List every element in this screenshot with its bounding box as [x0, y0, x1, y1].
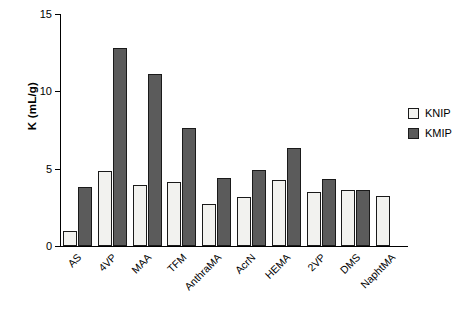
x-tick-label: HEMA [263, 251, 293, 281]
y-tick-mark [55, 246, 60, 247]
bar-kmip-anthrama [217, 178, 231, 246]
bar-group [63, 14, 92, 246]
bar-kmip-tfm [182, 128, 196, 246]
bar-group [167, 14, 196, 246]
bar-knip-hema [272, 180, 286, 247]
x-tick-label: DMS [337, 251, 362, 276]
bar-group [272, 14, 301, 246]
bar-group [133, 14, 162, 246]
bar-knip-naphtma [376, 196, 390, 246]
plot-area [60, 14, 408, 246]
x-tick-label: MAA [129, 251, 154, 276]
bar-kmip-hema [287, 148, 301, 246]
bar-kmip-dms [356, 190, 370, 246]
bar-knip-dms [341, 190, 355, 246]
x-tick-label: TFM [165, 251, 189, 275]
y-tick-mark [55, 14, 60, 15]
x-tick-label: 2VP [305, 251, 328, 274]
bar-knip-tfm [167, 182, 181, 246]
bar-group [237, 14, 266, 246]
x-tick-label: AcrN [233, 251, 258, 276]
bar-chart: K (mL/g) AS4VPMAATFMAnthraMAAcrNHEMA2VPD… [0, 0, 473, 324]
bar-group [341, 14, 370, 246]
legend-item-knip: KNIP [408, 108, 452, 119]
x-axis-line [60, 246, 408, 247]
legend-item-kmip: KMIP [408, 128, 452, 139]
bar-group [202, 14, 231, 246]
bar-kmip-maa [148, 74, 162, 246]
chart-legend: KNIP KMIP [408, 108, 452, 148]
x-tick-label: NaphtMA [358, 251, 397, 290]
bar-group [307, 14, 336, 246]
bar-knip-4vp [98, 171, 112, 246]
bar-knip-maa [133, 185, 147, 246]
bar-knip-as [63, 231, 77, 246]
y-tick-label: 5 [12, 163, 52, 175]
y-tick-mark [55, 91, 60, 92]
y-tick-label: 15 [12, 8, 52, 20]
bar-kmip-4vp [113, 48, 127, 246]
bar-group [98, 14, 127, 246]
bar-knip-acrn [237, 197, 251, 246]
y-tick-label: 10 [12, 85, 52, 97]
y-tick-mark [55, 169, 60, 170]
y-tick-label: 0 [12, 240, 52, 252]
legend-label-kmip: KMIP [425, 128, 452, 139]
bar-group [376, 14, 405, 246]
x-tick-label: AS [65, 251, 83, 269]
bar-knip-2vp [307, 192, 321, 246]
bar-kmip-2vp [322, 179, 336, 246]
legend-label-knip: KNIP [425, 108, 451, 119]
x-tick-label: 4VP [96, 251, 119, 274]
legend-swatch-kmip [408, 128, 419, 139]
legend-swatch-knip [408, 108, 419, 119]
bar-knip-anthrama [202, 204, 216, 246]
bar-kmip-as [78, 187, 92, 246]
x-tick-label: AnthraMA [182, 251, 223, 292]
bar-kmip-acrn [252, 170, 266, 246]
